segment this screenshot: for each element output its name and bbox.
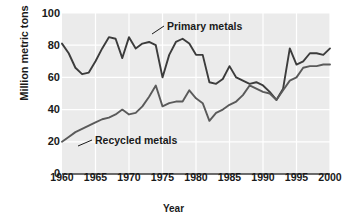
x-axis-tick-labels: 1960 1965 1970 1975 1980 1985 1990 1995 … — [0, 172, 347, 192]
x-axis-title: Year — [0, 203, 347, 214]
series-label-recycled-metals: Recycled metals — [95, 134, 177, 146]
chart-figure: Million metric tons 100 80 60 40 20 0 Pr… — [0, 0, 347, 223]
x-tick-label: 2000 — [310, 172, 347, 183]
series-label-primary-metals: Primary metals — [167, 20, 242, 32]
